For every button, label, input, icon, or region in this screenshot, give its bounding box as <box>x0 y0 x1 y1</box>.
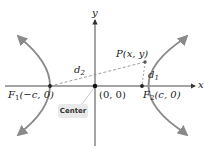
d1-line <box>142 62 145 86</box>
focus-f2-point <box>140 84 144 88</box>
hyperbola-left-branch <box>20 38 50 133</box>
origin-point <box>93 84 98 89</box>
focus-f1-point <box>48 84 52 88</box>
hyperbola-figure <box>0 0 205 150</box>
y-axis-label: y <box>92 8 98 18</box>
center-pointer <box>82 88 94 104</box>
d2-line <box>50 62 145 86</box>
d1-label: d1 <box>148 70 159 82</box>
hyperbola-right-branch <box>149 38 186 133</box>
focus-f1-label: F1(−c, 0) <box>8 90 54 102</box>
origin-label: (0, 0) <box>99 90 126 100</box>
point-p <box>143 60 146 63</box>
d2-label: d2 <box>74 65 85 77</box>
point-p-label: P(x, y) <box>116 49 148 59</box>
center-badge: Center <box>58 104 88 118</box>
x-axis-label: x <box>198 80 204 90</box>
focus-f2-label: F2(c, 0) <box>143 90 181 102</box>
